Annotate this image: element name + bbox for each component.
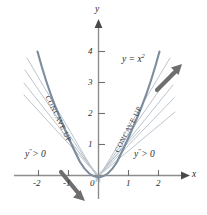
- second-derivative-right-rest: > 0: [141, 149, 155, 159]
- x-axis-arrowhead: [181, 172, 190, 180]
- tangent-line: [96, 85, 173, 180]
- second-derivative-left-rest: > 0: [32, 149, 46, 159]
- curve-equation-exponent: 2: [142, 52, 145, 59]
- y-axis-arrowhead: [95, 19, 103, 28]
- concavity-figure: y x -2 -1 0 1 2 1 2 3 4 y = x2 CONCAVE U…: [0, 0, 207, 215]
- y-tick-label-2: 2: [88, 108, 93, 118]
- x-tick-label-neg1: -1: [63, 178, 71, 188]
- curve-equation-label: y = x2: [122, 52, 145, 64]
- x-tick-label-1: 1: [126, 178, 131, 188]
- x-tick-label-neg2: -2: [33, 178, 41, 188]
- arrow-upper-right: [157, 70, 177, 90]
- curve-equation-base: y = x: [122, 54, 142, 64]
- y-tick-label-4: 4: [88, 46, 93, 56]
- y-tick-label-1: 1: [88, 139, 93, 149]
- y-tick-label-3: 3: [88, 77, 93, 87]
- y-axis-ticks: [99, 52, 106, 145]
- second-derivative-right: y″> 0: [134, 147, 155, 159]
- x-tick-label-zero: 0: [90, 178, 95, 188]
- plot-canvas: [0, 0, 207, 215]
- x-axis-label: x: [192, 169, 196, 179]
- second-derivative-left: y″> 0: [25, 147, 46, 159]
- y-axis-label: y: [95, 4, 99, 14]
- x-tick-label-2: 2: [156, 178, 161, 188]
